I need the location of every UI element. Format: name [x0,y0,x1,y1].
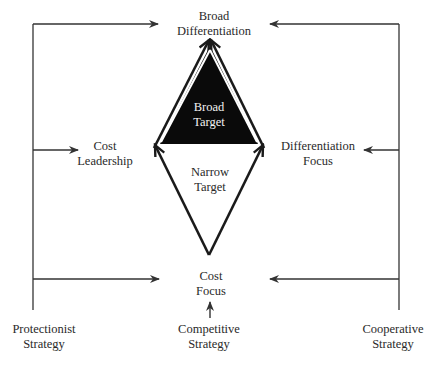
label-cost-leadership: Cost Leadership [77,139,133,169]
label-protectionist-strategy: Protectionist Strategy [12,322,75,352]
label-competitive-strategy: Competitive Strategy [178,322,240,352]
cost-focus-to-cost-leadership-arrow [155,145,209,255]
diamond-lower-edges [155,145,263,255]
label-cost-focus: Cost Focus [196,269,226,299]
cost-focus-to-differentiation-focus-arrow [209,145,263,255]
label-broad-differentiation: Broad Differentiation [177,9,251,39]
label-broad-target: Broad Target [193,100,225,130]
label-narrow-target: Narrow Target [191,165,229,195]
label-cooperative-strategy: Cooperative Strategy [362,322,423,352]
label-differentiation-focus: Differentiation Focus [281,139,355,169]
